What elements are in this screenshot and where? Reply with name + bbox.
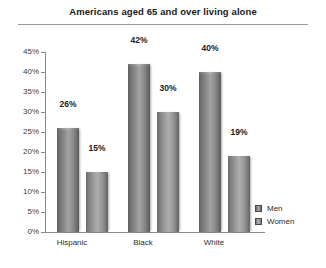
y-axis-line — [45, 52, 46, 233]
bar-hispanic-men[interactable] — [57, 128, 79, 232]
x-axis-line — [45, 232, 265, 233]
bar-value-white-men: 40% — [190, 44, 230, 53]
y-tick-45 — [41, 52, 45, 53]
bar-top-highlight — [228, 156, 250, 158]
y-tick-30 — [41, 112, 45, 113]
bar-top-highlight — [199, 72, 221, 74]
legend-label-men: Men — [267, 204, 283, 213]
y-axis-label-20: 20% — [5, 148, 39, 156]
bar-white-women[interactable] — [228, 156, 250, 232]
y-axis-label-45: 45% — [5, 48, 39, 56]
bar-hispanic-women[interactable] — [86, 172, 108, 232]
bar-top-highlight — [57, 128, 79, 130]
y-axis-label-40: 40% — [5, 68, 39, 76]
y-axis-label-5: 5% — [5, 208, 39, 216]
bar-value-white-women: 19% — [219, 128, 259, 137]
bar-value-black-women: 30% — [148, 84, 188, 93]
y-tick-35 — [41, 92, 45, 93]
legend-label-women: Women — [267, 217, 294, 226]
bar-top-highlight — [128, 64, 150, 66]
chart-container: Americans aged 65 and over living alone … — [0, 0, 326, 268]
y-tick-25 — [41, 132, 45, 133]
y-tick-15 — [41, 172, 45, 173]
y-tick-40 — [41, 72, 45, 73]
legend-swatch-men-icon — [255, 205, 262, 212]
y-axis-label-35: 35% — [5, 88, 39, 96]
bar-value-hispanic-women: 15% — [77, 144, 117, 153]
legend-item-men[interactable]: Men — [255, 203, 294, 214]
bar-top-highlight — [86, 172, 108, 174]
legend-item-women[interactable]: Women — [255, 216, 294, 227]
y-tick-5 — [41, 212, 45, 213]
legend-swatch-women-icon — [255, 218, 262, 225]
bar-value-black-men: 42% — [119, 36, 159, 45]
y-tick-20 — [41, 152, 45, 153]
y-axis-label-0: 0% — [5, 228, 39, 236]
x-axis-label-white: White — [179, 238, 249, 247]
bar-white-men[interactable] — [199, 72, 221, 232]
y-tick-10 — [41, 192, 45, 193]
y-axis-label-30: 30% — [5, 108, 39, 116]
bar-black-men[interactable] — [128, 64, 150, 232]
x-axis-label-hispanic: Hispanic — [37, 238, 107, 247]
bar-black-women[interactable] — [157, 112, 179, 232]
bar-top-highlight — [157, 112, 179, 114]
y-axis-label-25: 25% — [5, 128, 39, 136]
y-axis-label-10: 10% — [5, 188, 39, 196]
y-axis-label-15: 15% — [5, 168, 39, 176]
bar-value-hispanic-men: 26% — [48, 100, 88, 109]
x-axis-label-black: Black — [108, 238, 178, 247]
chart-legend: Men Women — [255, 203, 294, 229]
